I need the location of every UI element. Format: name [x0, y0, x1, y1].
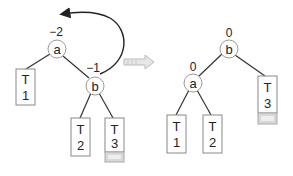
right-arrow-icon	[124, 55, 154, 69]
subtree-t1: T 1	[167, 115, 186, 153]
edge-b-a	[199, 54, 222, 76]
svg-text:T: T	[173, 119, 181, 134]
node-label: b	[91, 79, 98, 94]
edge-b-t3	[235, 55, 265, 76]
edge-a-b	[63, 56, 89, 78]
node-a: a −2	[48, 25, 66, 58]
svg-text:T: T	[77, 122, 85, 137]
avl-rotation-diagram: a −2 b −1 T 1 T 2 T 3	[0, 0, 293, 176]
svg-text:T: T	[209, 119, 217, 134]
node-b: b 0	[220, 26, 238, 58]
subtree-t1: T 1	[16, 69, 35, 105]
before-tree: a −2 b −1 T 1 T 2 T 3	[16, 12, 124, 162]
balance-factor: −2	[49, 25, 63, 39]
after-tree: b 0 a 0 T 1 T 2 T 3	[167, 26, 277, 153]
node-label: a	[189, 76, 197, 91]
svg-text:3: 3	[264, 96, 271, 111]
balance-factor: 0	[190, 60, 197, 74]
subtree-t3: T 3	[258, 76, 277, 124]
subtree-t2: T 2	[203, 115, 222, 153]
balance-factor: −1	[86, 61, 100, 75]
svg-text:T: T	[22, 72, 30, 87]
edge-a-t1	[176, 90, 189, 115]
edge-b-t2	[80, 93, 91, 118]
edge-a-t2	[197, 90, 211, 115]
node-a: a 0	[184, 60, 202, 92]
svg-text:3: 3	[111, 136, 118, 151]
svg-text:2: 2	[77, 138, 84, 153]
edge-b-t3	[99, 93, 113, 118]
svg-text:1: 1	[173, 135, 180, 150]
subtree-t2: T 2	[71, 118, 90, 156]
svg-text:T: T	[264, 80, 272, 95]
node-label: a	[53, 42, 61, 57]
node-label: b	[225, 42, 232, 57]
svg-text:2: 2	[209, 135, 216, 150]
subtree-t3: T 3	[105, 118, 124, 162]
svg-text:T: T	[111, 122, 119, 137]
svg-text:1: 1	[22, 88, 29, 103]
edge-a-t1	[26, 54, 50, 69]
balance-factor: 0	[226, 26, 233, 40]
